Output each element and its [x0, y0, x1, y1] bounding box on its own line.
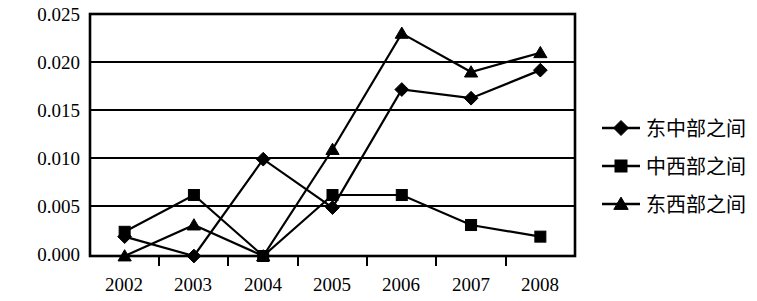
y-tick-label: 0.005 [37, 196, 80, 217]
square-data-marker [188, 190, 199, 201]
x-axis-tick-labels: 2002 2003 2004 2005 2006 2007 2008 [105, 274, 559, 295]
y-tick-label: 0.015 [37, 100, 80, 121]
plot-frame [90, 14, 575, 256]
x-tick-label: 2008 [521, 274, 559, 295]
line-chart: 0.025 0.020 0.015 0.010 0.005 0.000 [0, 0, 757, 301]
square-data-marker [615, 160, 627, 172]
square-data-marker [396, 190, 407, 201]
gridlines [90, 62, 575, 206]
legend-item-label: 东中部之间 [646, 118, 746, 140]
y-tick-label: 0.000 [37, 244, 80, 265]
diamond-data-marker [326, 201, 340, 215]
legend-item-zhongxibu[interactable]: 中西部之间 [602, 156, 746, 178]
square-data-marker [327, 190, 338, 201]
series-1 [118, 63, 547, 263]
y-axis-tick-labels: 0.025 0.020 0.015 0.010 0.005 0.000 [37, 4, 80, 265]
triangle-data-marker [187, 219, 200, 230]
diamond-marker-icon [614, 121, 629, 136]
y-tick-label: 0.010 [37, 148, 80, 169]
diamond-data-marker [187, 249, 201, 263]
x-tick-label: 2007 [452, 274, 490, 295]
chart-legend: 东中部之间 中西部之间 东西部之间 [602, 118, 746, 216]
x-tick-label: 2005 [313, 274, 351, 295]
diamond-data-marker [256, 152, 270, 166]
x-tick-label: 2002 [105, 274, 143, 295]
x-axis-tickmarks [159, 256, 506, 266]
triangle-data-marker [534, 46, 547, 57]
square-data-marker [119, 226, 130, 237]
triangle-data-marker [395, 27, 408, 38]
y-tick-label: 0.025 [37, 4, 80, 25]
chart-container: 0.025 0.020 0.015 0.010 0.005 0.000 [0, 0, 757, 301]
diamond-data-marker [533, 63, 547, 77]
square-data-marker [466, 220, 477, 231]
square-data-marker [535, 231, 546, 242]
diamond-data-marker [464, 91, 478, 105]
square-marker-icon [615, 160, 627, 172]
x-tick-label: 2006 [382, 274, 420, 295]
legend-item-dongzhongbu[interactable]: 东中部之间 [602, 118, 746, 140]
diamond-data-marker [614, 121, 629, 136]
x-tick-label: 2004 [244, 274, 283, 295]
legend-item-label: 东西部之间 [646, 194, 746, 216]
diamond-data-marker [395, 83, 409, 97]
y-tick-label: 0.020 [37, 52, 80, 73]
triangle-data-marker [326, 143, 339, 154]
legend-item-dongxibu[interactable]: 东西部之间 [602, 194, 746, 216]
x-tick-label: 2003 [174, 274, 212, 295]
series-2 [119, 190, 546, 262]
legend-item-label: 中西部之间 [646, 156, 746, 178]
